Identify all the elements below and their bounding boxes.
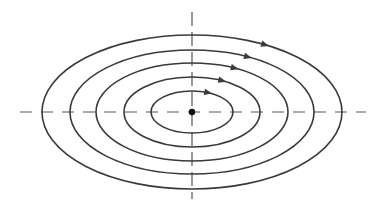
center-point bbox=[189, 109, 195, 115]
concentric-ellipse-diagram bbox=[0, 0, 388, 201]
arrowhead-icon bbox=[260, 41, 269, 47]
arrowhead-icon bbox=[243, 53, 252, 59]
direction-arrows bbox=[204, 41, 269, 95]
